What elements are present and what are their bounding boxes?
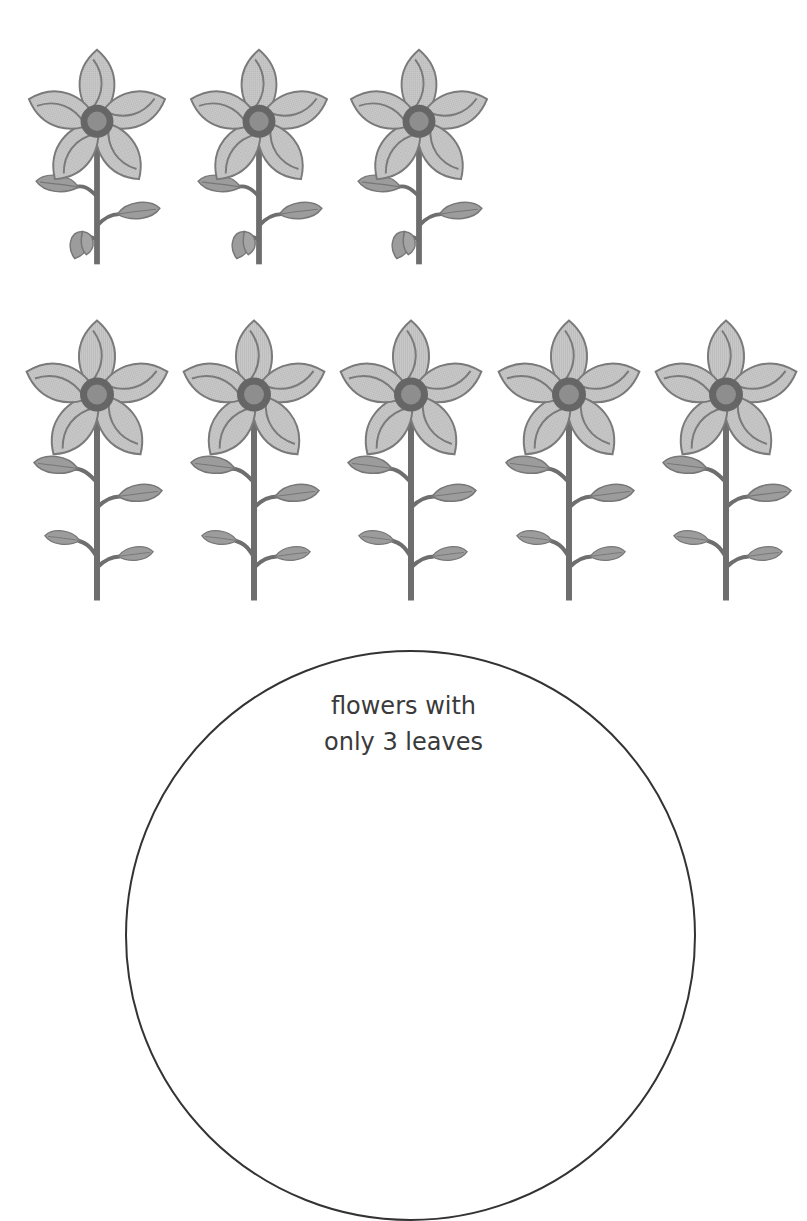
flower-3-leaves[interactable] — [344, 42, 494, 274]
flower-4-leaves[interactable] — [22, 310, 172, 610]
flower-icon — [494, 310, 644, 610]
flower-4-leaves[interactable] — [651, 310, 801, 610]
flower-icon — [184, 42, 334, 274]
flower-4-leaves[interactable] — [336, 310, 486, 610]
flower-3-leaves[interactable] — [22, 42, 172, 274]
flower-4-leaves[interactable] — [179, 310, 329, 610]
flower-icon — [179, 310, 329, 610]
flower-3-leaves[interactable] — [184, 42, 334, 274]
flower-icon — [651, 310, 801, 610]
flower-icon — [22, 42, 172, 274]
flower-icon — [336, 310, 486, 610]
flower-icon — [22, 310, 172, 610]
flower-4-leaves[interactable] — [494, 310, 644, 610]
sorting-circle-label: flowers with only 3 leaves — [0, 688, 807, 760]
label-line-2: only 3 leaves — [0, 724, 807, 760]
label-line-1: flowers with — [0, 688, 807, 724]
flower-icon — [344, 42, 494, 274]
